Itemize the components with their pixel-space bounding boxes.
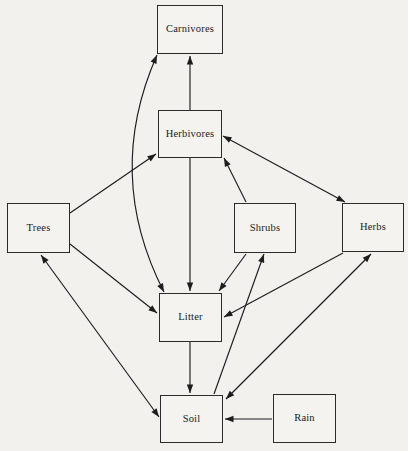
node-label-soil: Soil: [183, 414, 201, 425]
node-soil[interactable]: Soil: [160, 395, 223, 443]
arrowhead-herbivores-to-litter-end: [187, 283, 193, 292]
node-herbivores[interactable]: Herbivores: [158, 110, 222, 158]
edge-trees-to-litter: [70, 244, 157, 313]
node-rain[interactable]: Rain: [273, 394, 336, 443]
node-label-litter: Litter: [178, 312, 203, 323]
ecosystem-flow-diagram: Carnivores Herbivores Trees Shrubs Herbs…: [0, 0, 408, 451]
arrowhead-litter-carnivores-curve-end: [157, 283, 164, 292]
node-label-carnivores: Carnivores: [166, 24, 214, 35]
arrowhead-herbivores-herbs-start: [223, 136, 232, 143]
arrowhead-litter-to-soil-end: [187, 385, 193, 394]
node-carnivores[interactable]: Carnivores: [157, 5, 223, 54]
arrowhead-trees-to-herbivores-end: [147, 154, 156, 161]
arrowhead-trees-to-litter-end: [148, 305, 157, 313]
arrowhead-litter-carnivores-curve-start: [151, 55, 157, 64]
arrowhead-soil-to-shrubs-end: [258, 254, 264, 263]
node-litter[interactable]: Litter: [159, 293, 222, 342]
arrowhead-trees-soil-start: [41, 255, 49, 264]
arrowhead-shrubs-to-herbivores-end: [224, 158, 231, 167]
arrowhead-herbivores-herbs-end: [336, 195, 345, 202]
arrowhead-shrubs-to-litter-end: [219, 282, 227, 291]
node-trees[interactable]: Trees: [7, 203, 70, 253]
node-label-rain: Rain: [294, 413, 315, 424]
edge-soil-herbs: [226, 254, 371, 399]
edge-trees-to-herbivores: [70, 154, 156, 213]
node-label-herbivores: Herbivores: [166, 129, 215, 140]
node-label-herbs: Herbs: [360, 222, 386, 233]
node-herbs[interactable]: Herbs: [342, 203, 404, 252]
edge-litter-carnivores-curve: [132, 55, 164, 292]
arrowhead-herbs-to-litter-end: [224, 310, 233, 317]
node-shrubs[interactable]: Shrubs: [234, 203, 296, 253]
node-label-shrubs: Shrubs: [250, 223, 280, 234]
arrowhead-herbivores-to-carnivores-end: [187, 56, 193, 65]
arrowhead-trees-soil-end: [151, 408, 159, 417]
node-label-trees: Trees: [27, 223, 51, 234]
edge-herbs-to-litter: [224, 253, 343, 317]
edge-trees-soil: [41, 255, 159, 417]
arrowhead-rain-to-soil-end: [225, 416, 234, 422]
